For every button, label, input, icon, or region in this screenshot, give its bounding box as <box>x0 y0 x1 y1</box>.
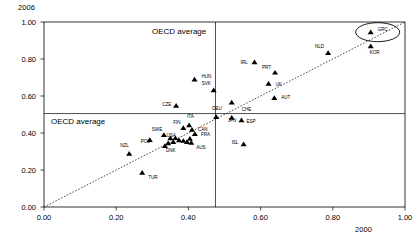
data-marker-aut <box>271 95 277 100</box>
data-marker-nzl <box>126 151 132 156</box>
diagonal-reference-line <box>44 22 405 207</box>
data-marker-jpn <box>229 115 235 120</box>
data-marker-grc <box>368 30 374 35</box>
data-marker-isl <box>241 141 247 146</box>
data-marker-fra <box>192 131 198 136</box>
plot-area <box>0 0 418 241</box>
data-marker <box>165 141 171 146</box>
highlight-ellipse-grc <box>356 23 400 42</box>
data-marker-pol <box>147 137 153 142</box>
data-marker-swe <box>161 132 167 137</box>
data-marker <box>167 136 173 141</box>
data-marker-aus <box>188 140 194 145</box>
data-marker-hun <box>192 77 198 82</box>
data-marker-nld2 <box>187 136 193 141</box>
data-marker-tur <box>139 170 145 175</box>
data-marker-ita <box>186 122 192 127</box>
data-marker-kor <box>368 43 374 48</box>
data-marker-nld <box>325 50 331 55</box>
data-marker-che <box>229 100 235 105</box>
data-marker-cze <box>173 103 179 108</box>
scatter-chart: 2006 2000 0.000.200.400.600.801.000.000.… <box>0 0 418 241</box>
data-marker-deu <box>213 114 219 119</box>
data-marker-esp <box>238 117 244 122</box>
data-marker-usa <box>172 135 178 140</box>
data-marker-irl <box>251 60 257 65</box>
data-marker-can <box>189 127 195 132</box>
data-marker-uk <box>266 81 272 86</box>
data-marker-prt <box>272 70 278 75</box>
data-marker-fin <box>180 125 186 130</box>
